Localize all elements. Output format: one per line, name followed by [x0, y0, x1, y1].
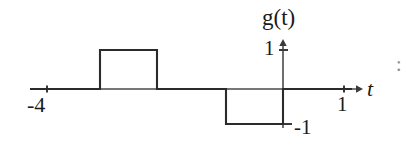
x-axis-title: t	[367, 78, 373, 100]
signal-waveform-trace	[30, 50, 352, 124]
y-axis-title-text: g(t)	[262, 5, 295, 30]
edge-artifact-mark: :	[396, 54, 400, 78]
x-tick-label-one: 1	[337, 94, 348, 115]
y-tick-label-positive-one: 1	[264, 38, 275, 59]
waveform-plot-canvas	[0, 0, 406, 167]
y-tick-label-negative-one: -1	[294, 117, 312, 138]
x-axis-arrowhead	[356, 85, 363, 93]
waveform-figure: g(t) 1 -1 -4 1 t :	[0, 0, 406, 167]
x-tick-label-minus-four: -4	[27, 94, 45, 116]
y-axis-arrowhead	[279, 39, 286, 46]
y-axis-title: g(t)	[262, 6, 295, 29]
